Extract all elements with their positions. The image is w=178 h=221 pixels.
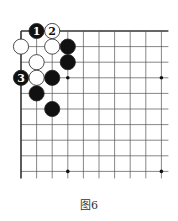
stone-disc (13, 39, 28, 54)
white-stone (45, 39, 60, 54)
white-stone: 2 (45, 23, 60, 38)
star-point (160, 76, 164, 80)
star-point (160, 170, 164, 174)
move-number: 2 (48, 25, 56, 38)
white-stone (29, 55, 44, 70)
white-stone (13, 39, 28, 54)
black-stone: 3 (13, 70, 28, 85)
stone-disc (60, 39, 75, 54)
go-board: 123 (0, 0, 178, 221)
stone-disc (29, 55, 44, 70)
black-stone (29, 86, 44, 101)
star-point (66, 170, 70, 174)
stone-disc (45, 101, 60, 116)
stone-disc (29, 70, 44, 85)
black-stone (45, 70, 60, 85)
board-grid (21, 31, 168, 178)
star-point (66, 76, 70, 80)
stones: 123 (13, 23, 75, 116)
stone-disc (60, 55, 75, 70)
black-stone (45, 101, 60, 116)
stone-disc (29, 86, 44, 101)
move-number: 3 (17, 72, 25, 85)
stone-disc (45, 39, 60, 54)
black-stone: 1 (29, 23, 44, 38)
white-stone (29, 70, 44, 85)
black-stone (60, 55, 75, 70)
move-number: 1 (33, 25, 41, 38)
stone-disc (45, 70, 60, 85)
black-stone (60, 39, 75, 54)
figure-caption: 图6 (0, 196, 178, 212)
